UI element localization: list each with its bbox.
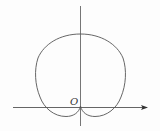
curve-figure [0, 0, 160, 131]
diagram: O [0, 0, 160, 131]
origin-label: O [70, 96, 78, 107]
